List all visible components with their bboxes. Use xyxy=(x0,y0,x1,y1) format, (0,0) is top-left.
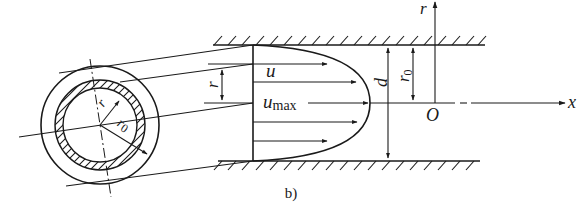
bottom-wall xyxy=(214,161,480,170)
label-r-axis: r xyxy=(420,0,427,18)
top-wall xyxy=(213,36,486,45)
label-u: u xyxy=(266,60,276,81)
label-x-axis: x xyxy=(567,92,576,112)
pipe-flow-diagram: u umax r d r0 r x O r r0 b) xyxy=(0,0,582,211)
label-umax: umax xyxy=(263,91,297,113)
labels: u umax r d r0 r x O r r0 b) xyxy=(94,0,576,202)
label-r0: r0 xyxy=(394,69,415,82)
label-origin: O xyxy=(426,105,439,125)
label-circle-r: r xyxy=(94,96,110,110)
label-r-dimension: r xyxy=(203,81,222,88)
label-circle-r0: r0 xyxy=(113,115,132,135)
figure-caption: b) xyxy=(285,185,298,202)
label-d: d xyxy=(371,77,391,87)
